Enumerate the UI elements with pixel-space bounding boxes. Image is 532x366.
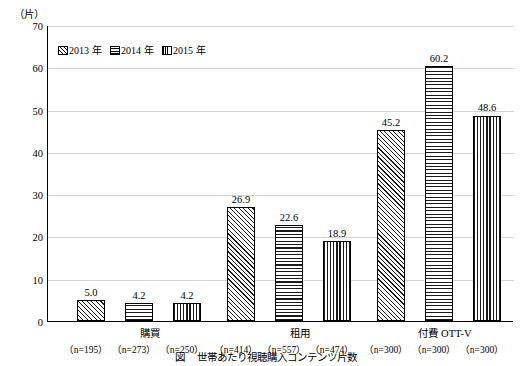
bar-2015-ott bbox=[473, 116, 501, 322]
bar-2013-rental bbox=[227, 207, 255, 321]
bar-2014-rental bbox=[275, 225, 303, 321]
y-tick-10: 10 bbox=[3, 274, 43, 285]
category-label-purchase: 購買 bbox=[125, 325, 175, 340]
bar-value-2014-purchase: 4.2 bbox=[125, 290, 153, 301]
bar-value-2015-ott: 48.6 bbox=[473, 102, 501, 113]
figure-caption-text: 世帯あたり視聴購入コンテンツ片数 bbox=[197, 352, 357, 363]
figure-caption: 図 世帯あたり視聴購入コンテンツ片数 bbox=[0, 349, 532, 364]
bar-2015-purchase bbox=[173, 303, 201, 321]
bar-value-2015-purchase: 4.2 bbox=[173, 290, 201, 301]
y-tick-50: 50 bbox=[3, 105, 43, 116]
bar-value-2013-purchase: 5.0 bbox=[77, 287, 105, 298]
y-tick-20: 20 bbox=[3, 232, 43, 243]
y-axis-unit-label: （片） bbox=[14, 6, 44, 21]
y-tick-40: 40 bbox=[3, 147, 43, 158]
bar-value-2014-rental: 22.6 bbox=[275, 212, 303, 223]
bar-2014-ott bbox=[425, 66, 453, 321]
figure-number: 図 bbox=[175, 352, 188, 363]
y-tick-70: 70 bbox=[3, 21, 43, 32]
bar-2014-purchase bbox=[125, 303, 153, 321]
bar-value-2014-ott: 60.2 bbox=[425, 53, 453, 64]
bar-value-2015-rental: 18.9 bbox=[323, 228, 351, 239]
bar-2013-ott bbox=[377, 130, 405, 321]
chart-figure: （片） 70 60 50 40 30 20 10 0 2013 年 2014 年… bbox=[0, 0, 532, 366]
y-tick-60: 60 bbox=[3, 63, 43, 74]
bar-2013-purchase bbox=[77, 300, 105, 321]
y-tick-30: 30 bbox=[3, 190, 43, 201]
y-axis-tick-labels: 70 60 50 40 30 20 10 0 bbox=[0, 26, 43, 322]
y-tick-0: 0 bbox=[3, 317, 43, 328]
category-label-rental: 租用 bbox=[275, 325, 325, 340]
bar-2015-rental bbox=[323, 241, 351, 321]
bar-value-2013-rental: 26.9 bbox=[227, 194, 255, 205]
bar-value-2013-ott: 45.2 bbox=[377, 117, 405, 128]
bars-layer: 5.0 4.2 4.2 26.9 22.6 18.9 45.2 60.2 48.… bbox=[47, 26, 513, 321]
category-label-ott: 付費 OTT-V bbox=[400, 325, 490, 340]
